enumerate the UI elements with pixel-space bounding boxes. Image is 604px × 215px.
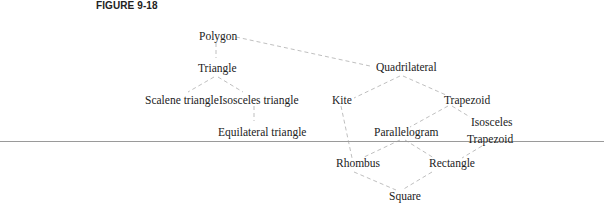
edge-triangle-isosceles — [218, 77, 243, 92]
node-scalene-triangle: Scalene triangle — [145, 94, 219, 107]
node-equilateral-triangle: Equilateral triangle — [218, 126, 306, 139]
edge-triangle-scalene — [188, 77, 214, 92]
edge-kite-rhombus — [341, 106, 352, 158]
node-rhombus: Rhombus — [336, 157, 380, 170]
edge-polygon-quadrilateral — [236, 37, 370, 66]
node-isosceles-triangle: Isosceles triangle — [219, 94, 299, 107]
edge-quadrilateral-trapezoid — [403, 76, 446, 95]
edge-quadrilateral-kite — [354, 76, 400, 98]
edge-rhombus-square — [354, 172, 396, 190]
edge-parallelogram-rectangle — [405, 140, 434, 158]
edge-trapezoid-parallelogram — [410, 106, 448, 127]
node-quadrilateral: Quadrilateral — [376, 61, 437, 74]
edge-rectangle-square — [402, 172, 432, 190]
node-square: Square — [389, 190, 421, 203]
hierarchy-edges — [0, 0, 604, 215]
node-isosceles-trapezoid-line2: Trapezoid — [467, 133, 513, 146]
node-parallelogram: Parallelogram — [374, 126, 439, 139]
node-triangle: Triangle — [198, 62, 237, 75]
node-trapezoid: Trapezoid — [444, 94, 490, 107]
node-kite: Kite — [332, 94, 352, 107]
edge-parallelogram-rhombus — [362, 140, 400, 158]
horizontal-rule — [0, 141, 604, 142]
node-isosceles-trapezoid-line1: Isosceles — [471, 116, 513, 129]
node-rectangle: Rectangle — [429, 157, 475, 170]
edge-trapezoid-isosceles-trapezoid — [452, 106, 470, 117]
node-polygon: Polygon — [199, 30, 237, 43]
